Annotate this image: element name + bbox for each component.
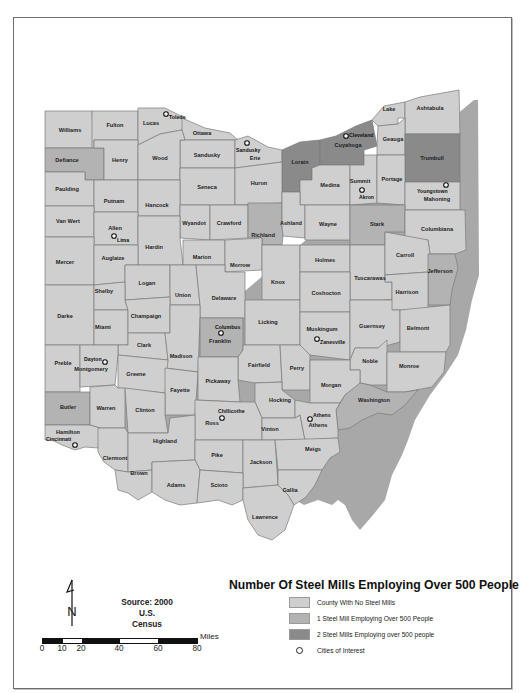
legend-item-two: 2 Steel Mills Employing over 500 people xyxy=(289,627,434,641)
svg-text:Columbiana: Columbiana xyxy=(421,226,454,232)
city-marker-dayton xyxy=(103,360,108,365)
svg-text:Tuscarawas: Tuscarawas xyxy=(354,275,386,281)
source-line-2: Census xyxy=(112,619,182,630)
city-marker-lima xyxy=(112,234,117,239)
svg-text:Putnam: Putnam xyxy=(104,198,125,204)
city-marker-cincinnati xyxy=(73,443,78,448)
county-marion[interactable] xyxy=(183,240,225,265)
legend-swatch-none xyxy=(289,597,310,608)
svg-text:Fairfield: Fairfield xyxy=(248,362,270,368)
svg-text:Fulton: Fulton xyxy=(106,122,124,128)
legend-title: Number Of Steel Mills Employing Over 500… xyxy=(229,578,519,592)
svg-text:Defiance: Defiance xyxy=(55,157,78,163)
svg-text:Portage: Portage xyxy=(382,176,403,182)
svg-text:Lorain: Lorain xyxy=(291,159,309,165)
county-delaware[interactable] xyxy=(196,265,245,318)
svg-text:Darke: Darke xyxy=(57,313,73,319)
svg-text:Erie: Erie xyxy=(250,155,261,161)
svg-text:Washington: Washington xyxy=(358,397,390,403)
svg-text:Clermont: Clermont xyxy=(103,455,128,461)
city-circle-icon xyxy=(289,647,310,654)
svg-text:Shelby: Shelby xyxy=(95,288,114,294)
city-marker-youngstown xyxy=(444,183,449,188)
svg-text:Montgomery: Montgomery xyxy=(74,366,108,372)
svg-text:Summit: Summit xyxy=(350,178,371,184)
svg-text:Madison: Madison xyxy=(170,353,193,359)
north-arrow-icon: N xyxy=(62,578,82,628)
county-union[interactable] xyxy=(170,265,200,305)
svg-text:Ashland: Ashland xyxy=(280,220,303,226)
svg-text:Brown: Brown xyxy=(130,470,148,476)
county-hancock[interactable] xyxy=(138,180,180,216)
svg-text:Adams: Adams xyxy=(167,482,186,488)
svg-text:Fayette: Fayette xyxy=(170,387,190,393)
svg-text:Ross: Ross xyxy=(205,420,219,426)
svg-text:Knox: Knox xyxy=(271,279,286,285)
svg-text:Lucas: Lucas xyxy=(143,120,159,126)
svg-text:Perry: Perry xyxy=(290,365,305,371)
svg-text:Seneca: Seneca xyxy=(197,184,217,190)
svg-text:Ashtabula: Ashtabula xyxy=(416,105,444,111)
svg-text:Mercer: Mercer xyxy=(56,259,75,265)
svg-text:Jefferson: Jefferson xyxy=(427,268,453,274)
city-marker-cleveland xyxy=(344,134,349,139)
svg-text:Wayne: Wayne xyxy=(319,221,337,227)
county-shelby[interactable] xyxy=(94,282,128,310)
svg-text:Morrow: Morrow xyxy=(230,262,251,268)
city-marker-akron xyxy=(360,188,365,193)
svg-text:Hamilton: Hamilton xyxy=(56,429,81,435)
svg-text:Lima: Lima xyxy=(117,237,129,243)
svg-text:Carroll: Carroll xyxy=(396,252,414,258)
county-hardin[interactable] xyxy=(138,216,183,265)
county-ashtabula[interactable] xyxy=(405,90,460,134)
svg-text:Dayton: Dayton xyxy=(84,356,102,362)
svg-text:Clinton: Clinton xyxy=(135,407,155,413)
svg-text:N: N xyxy=(67,604,76,619)
svg-text:Lawrence: Lawrence xyxy=(252,514,278,520)
county-muskingum[interactable] xyxy=(300,312,350,360)
svg-text:Logan: Logan xyxy=(139,280,156,286)
svg-text:Athens: Athens xyxy=(313,412,331,418)
scale-ticks: 0 10 20 40 60 80 xyxy=(42,644,212,654)
svg-text:Morgan: Morgan xyxy=(321,382,342,388)
county-monroe[interactable] xyxy=(387,352,446,392)
county-knox[interactable] xyxy=(262,245,300,300)
county-ottawa[interactable] xyxy=(182,118,238,140)
svg-text:Paulding: Paulding xyxy=(55,186,79,192)
svg-text:Holmes: Holmes xyxy=(315,257,335,263)
svg-text:Chillicothe: Chillicothe xyxy=(218,408,245,414)
svg-text:Williams: Williams xyxy=(59,127,82,133)
svg-text:Mahoning: Mahoning xyxy=(424,196,451,202)
svg-text:Van Wert: Van Wert xyxy=(56,218,80,224)
svg-text:Youngstown: Youngstown xyxy=(417,188,448,194)
svg-text:Richland: Richland xyxy=(251,232,275,238)
svg-text:Preble: Preble xyxy=(54,360,71,366)
svg-text:Athens: Athens xyxy=(309,422,328,428)
svg-text:Jackson: Jackson xyxy=(250,459,273,465)
svg-text:Pike: Pike xyxy=(211,452,223,458)
svg-text:Vinton: Vinton xyxy=(261,426,279,432)
svg-text:Allen: Allen xyxy=(108,225,122,231)
svg-text:Medina: Medina xyxy=(320,182,340,188)
svg-text:Columbus: Columbus xyxy=(215,324,240,330)
county-madison[interactable] xyxy=(165,305,200,372)
svg-text:Toledo: Toledo xyxy=(169,114,186,120)
svg-text:Huron: Huron xyxy=(251,180,268,186)
legend-swatch-one xyxy=(289,613,310,624)
city-marker-columbus xyxy=(219,331,224,336)
svg-text:Hancock: Hancock xyxy=(145,202,169,208)
svg-text:Akron: Akron xyxy=(359,194,374,200)
county-clermont[interactable] xyxy=(98,428,128,472)
svg-text:Franklin: Franklin xyxy=(209,338,231,344)
county-putnam[interactable] xyxy=(94,180,138,212)
svg-text:Zanesville: Zanesville xyxy=(320,339,345,345)
svg-text:Hocking: Hocking xyxy=(269,397,292,403)
svg-text:Butler: Butler xyxy=(60,404,77,410)
svg-text:Meigs: Meigs xyxy=(305,446,321,452)
svg-text:Guernsey: Guernsey xyxy=(359,323,386,329)
source-line-1: Source: 2000 U.S. xyxy=(112,597,182,619)
county-lawrence[interactable] xyxy=(243,485,294,540)
legend-item-none: County With No Steel Mills xyxy=(289,595,395,609)
city-marker-chillicothe xyxy=(220,416,225,421)
svg-text:Auglaize: Auglaize xyxy=(101,255,124,261)
